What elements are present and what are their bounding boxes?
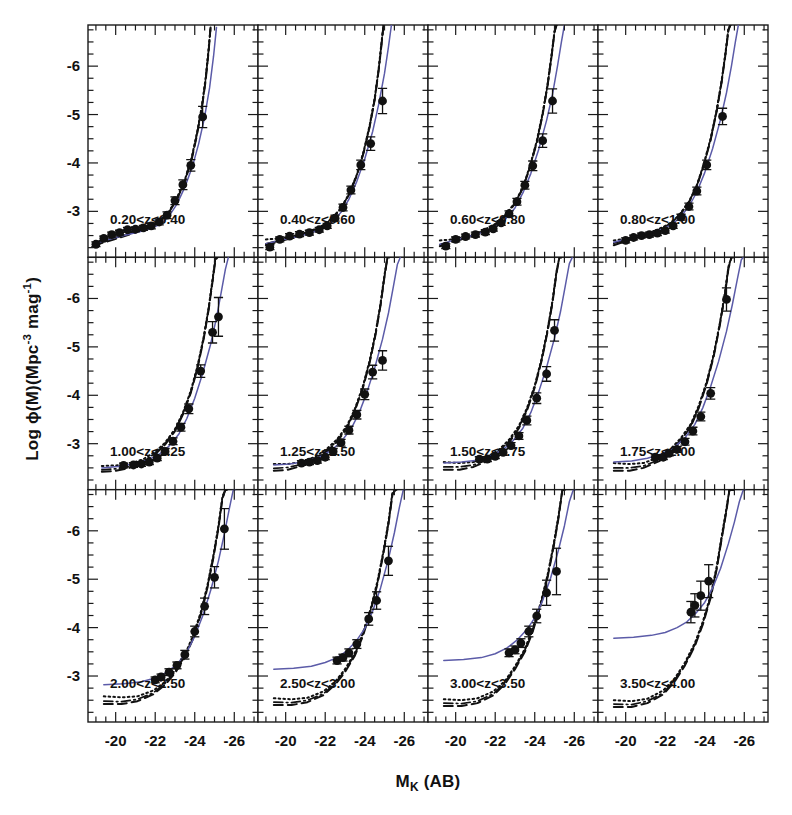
y-tick-label: -5 <box>34 338 80 355</box>
y-tick-label: -4 <box>34 386 80 403</box>
data-point <box>512 197 521 206</box>
x-axis-label: MK (AB) <box>88 772 768 794</box>
panel-redshift-label: 1.50<z<1.75 <box>450 444 526 459</box>
x-tick-label: -26 <box>554 732 594 749</box>
x-tick-label: -26 <box>724 732 764 749</box>
x-tick-label: -20 <box>96 732 136 749</box>
y-tick-label: -5 <box>34 570 80 587</box>
x-tick-label: -26 <box>214 732 254 749</box>
data-point <box>164 668 173 677</box>
panel-redshift-label: 3.00<z<3.50 <box>450 676 525 691</box>
y-tick-label: -5 <box>34 106 80 123</box>
panel-redshift-label: 2.00<z<2.50 <box>110 676 185 691</box>
x-tick-label: -20 <box>436 732 476 749</box>
x-tick-label: -24 <box>175 732 215 749</box>
y-tick-label: -6 <box>34 522 80 539</box>
panel-redshift-label: 0.60<z<0.80 <box>450 212 525 227</box>
x-tick-label: -24 <box>345 732 385 749</box>
y-tick-label: -4 <box>34 154 80 171</box>
data-point <box>172 661 181 670</box>
y-axis-label: Log ϕ(M)(Mpc-3 mag-1) <box>21 219 43 519</box>
data-point <box>684 202 693 211</box>
y-tick-label: -3 <box>34 202 80 219</box>
data-point <box>338 203 347 212</box>
x-tick-label: -24 <box>515 732 555 749</box>
y-tick-label: -3 <box>34 435 80 452</box>
x-tick-label: -20 <box>266 732 306 749</box>
panel-grid: 0.20<z<0.400.40<z<0.600.60<z<0.800.80<z<… <box>0 0 792 815</box>
panel-redshift-label: 2.50<z<3.00 <box>280 676 355 691</box>
data-point <box>514 432 523 441</box>
x-tick-label: -26 <box>384 732 424 749</box>
panel-redshift-label: 0.40<z<0.60 <box>280 212 355 227</box>
y-tick-label: -4 <box>34 619 80 636</box>
panel-redshift-label: 1.75<z<2.00 <box>620 444 695 459</box>
x-tick-label: -24 <box>685 732 725 749</box>
panel-redshift-label: 1.25<z<1.50 <box>280 444 355 459</box>
x-tick-label: -22 <box>645 732 685 749</box>
panel-redshift-label: 3.50<z<4.00 <box>620 676 695 691</box>
x-tick-label: -22 <box>135 732 175 749</box>
x-tick-label: -20 <box>606 732 646 749</box>
x-tick-label: -22 <box>305 732 345 749</box>
y-tick-label: -3 <box>34 667 80 684</box>
y-tick-label: -6 <box>34 57 80 74</box>
panel-redshift-label: 0.20<z<0.40 <box>110 212 185 227</box>
y-tick-label: -6 <box>34 289 80 306</box>
luminosity-function-figure: 0.20<z<0.400.40<z<0.600.60<z<0.800.80<z<… <box>0 0 792 815</box>
panel-redshift-label: 1.00<z<1.25 <box>110 444 186 459</box>
x-tick-label: -22 <box>475 732 515 749</box>
panel-redshift-label: 0.80<z<1.00 <box>620 212 695 227</box>
